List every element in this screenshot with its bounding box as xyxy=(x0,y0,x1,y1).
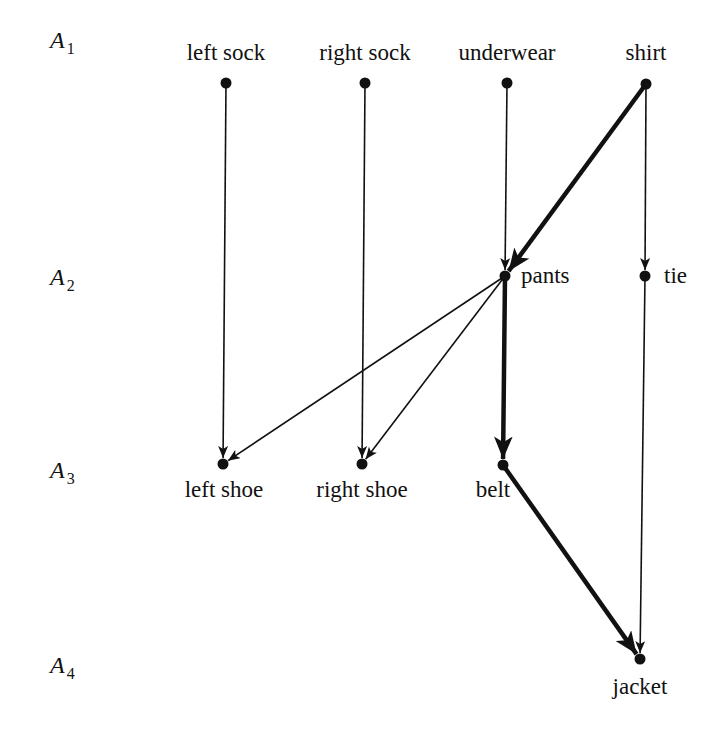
node-label: left shoe xyxy=(185,477,264,502)
edges xyxy=(223,83,646,654)
node-right-shoe: right shoe xyxy=(316,459,407,503)
node-jacket: jacket xyxy=(612,654,669,700)
node-dot xyxy=(641,79,652,90)
level-label-a2: A2 xyxy=(48,264,75,294)
node-label: left sock xyxy=(187,40,266,65)
node-shirt: shirt xyxy=(626,40,668,90)
node-dot xyxy=(357,459,368,470)
node-right-sock: right sock xyxy=(319,40,411,89)
edge-left-sock-to-left-shoe xyxy=(223,83,226,458)
edge-shirt-to-pants xyxy=(509,84,646,271)
node-dot xyxy=(360,78,371,89)
node-dot xyxy=(218,459,229,470)
node-underwear: underwear xyxy=(458,40,555,89)
edge-belt-to-jacket xyxy=(503,465,637,654)
node-label: shirt xyxy=(626,40,668,65)
nodes: left sockright sockunderwearshirtpantsti… xyxy=(185,40,687,699)
level-label-a3: A3 xyxy=(48,457,75,487)
node-left-sock: left sock xyxy=(187,40,266,89)
edge-pants-to-left-shoe xyxy=(228,276,505,461)
dependency-diagram: A1A2A3A4 left sockright sockunderwearshi… xyxy=(0,0,727,737)
node-label: right shoe xyxy=(316,477,407,502)
edge-pants-to-right-shoe xyxy=(366,276,505,459)
node-dot xyxy=(502,78,513,89)
node-dot xyxy=(640,271,651,282)
node-dot xyxy=(635,654,646,665)
level-label-a4: A4 xyxy=(48,652,75,682)
node-label: tie xyxy=(664,263,687,288)
edge-tie-to-jacket xyxy=(640,276,645,653)
node-left-shoe: left shoe xyxy=(185,459,264,503)
node-dot xyxy=(221,78,232,89)
node-belt: belt xyxy=(476,460,511,503)
edge-shirt-to-tie xyxy=(645,84,646,270)
edge-underwear-to-pants xyxy=(505,83,507,270)
level-label-a1: A1 xyxy=(48,27,75,57)
level-labels: A1A2A3A4 xyxy=(48,27,75,682)
edge-right-sock-to-right-shoe xyxy=(362,83,365,458)
node-dot xyxy=(498,460,509,471)
edge-pants-to-belt xyxy=(503,276,505,459)
node-dot xyxy=(500,271,511,282)
node-label: pants xyxy=(521,263,570,288)
node-label: belt xyxy=(476,477,511,502)
node-label: underwear xyxy=(458,40,555,65)
node-tie: tie xyxy=(640,263,688,288)
node-label: jacket xyxy=(612,674,669,699)
node-label: right sock xyxy=(319,40,411,65)
